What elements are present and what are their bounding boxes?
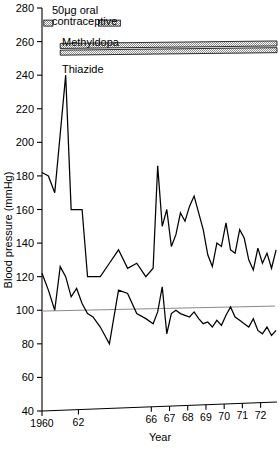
thiazide-label: Thiazide (62, 63, 104, 75)
x-tick-label: 67 (164, 412, 176, 424)
x-tick-label: 68 (182, 411, 194, 423)
blood-pressure-chart: 406080100120140160180200220240260280 196… (0, 0, 280, 449)
y-tick-label: 60 (22, 371, 34, 383)
x-tick-label: 70 (218, 410, 230, 422)
series-systolic-blood-pressure (42, 75, 276, 277)
chart-canvas: 406080100120140160180200220240260280 196… (0, 0, 280, 449)
y-tick-label: 240 (16, 69, 34, 81)
y-tick-label: 160 (16, 204, 34, 216)
x-tick-label: 69 (200, 411, 212, 423)
contraceptive-label-line2: contraceptive (52, 15, 117, 27)
data-series (42, 75, 276, 344)
x-tick-label: 62 (73, 416, 85, 428)
series-diastolic-blood-pressure (42, 267, 276, 344)
y-tick-label: 120 (16, 271, 34, 283)
x-tick-label: 66 (145, 413, 157, 425)
y-axis: 406080100120140160180200220240260280 (16, 2, 42, 417)
y-tick-label: 260 (16, 36, 34, 48)
y-tick-label: 40 (22, 405, 34, 417)
methyldopa-label: Methyldopa (62, 36, 120, 48)
x-axis: 19606266676869707172 (30, 402, 277, 429)
y-tick-label: 200 (16, 136, 34, 148)
y-tick-label: 280 (16, 2, 34, 14)
y-tick-label: 220 (16, 103, 34, 115)
y-tick-label: 100 (16, 304, 34, 316)
y-axis-title: Blood pressure (mmHg) (2, 172, 14, 289)
y-tick-label: 180 (16, 170, 34, 182)
x-tick-label: 71 (237, 409, 249, 421)
y-tick-label: 140 (16, 237, 34, 249)
y-tick-label: 80 (22, 338, 34, 350)
x-tick-label: 72 (255, 409, 267, 421)
thiazide-bar (60, 48, 277, 56)
x-axis-title: Year (149, 431, 172, 443)
x-tick-label: 1960 (30, 417, 54, 429)
